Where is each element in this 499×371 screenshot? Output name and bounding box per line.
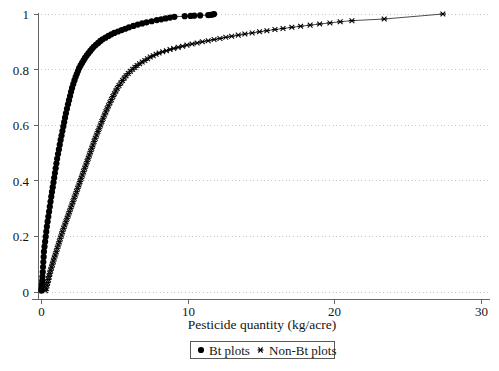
data-point <box>242 32 248 37</box>
y-tick-label-0.8: 0.8 <box>13 63 29 78</box>
y-tick-label-0.6: 0.6 <box>13 118 30 133</box>
data-point <box>41 254 47 260</box>
data-point <box>199 39 205 44</box>
data-point <box>191 13 197 19</box>
legend-label-bt-plots: Bt plots <box>209 343 250 358</box>
data-point <box>289 25 295 30</box>
data-point <box>171 14 177 20</box>
legend-label-non-bt-plots: Non-Bt plots <box>269 343 337 358</box>
data-point <box>317 22 323 27</box>
ecdf-chart: 1 0.8 0.6 0.4 0.2 0 0 10 20 30 Pesticide… <box>0 0 499 371</box>
data-point <box>194 41 200 46</box>
x-axis-title: Pesticide quantity (kg/acre) <box>188 317 336 332</box>
data-point <box>211 11 217 17</box>
y-tick-label-1: 1 <box>23 7 30 22</box>
series-line-1 <box>45 14 442 291</box>
series-line-0 <box>41 14 214 291</box>
y-tick-label-0.2: 0.2 <box>13 229 29 244</box>
data-point <box>205 38 211 43</box>
y-tick-label-0.4: 0.4 <box>13 174 30 189</box>
data-point <box>381 17 387 22</box>
y-tick-label-0: 0 <box>23 285 30 300</box>
data-point <box>179 44 185 49</box>
gridlines <box>41 14 490 292</box>
data-point <box>211 37 217 42</box>
data-point <box>297 24 303 29</box>
data-point <box>337 19 343 24</box>
x-tick-label-0: 0 <box>38 304 45 319</box>
data-point <box>256 29 262 34</box>
x-axis: 0 10 20 30 Pesticide quantity (kg/acre) <box>32 300 490 333</box>
data-point <box>235 33 241 38</box>
data-point <box>144 19 150 25</box>
data-point <box>264 28 270 33</box>
data-point <box>223 35 229 40</box>
data-point <box>440 12 446 17</box>
data-point <box>217 36 223 41</box>
data-point <box>307 23 313 28</box>
data-point <box>249 31 255 36</box>
x-tick-label-30: 30 <box>475 304 488 319</box>
data-point <box>272 27 278 32</box>
legend-marker-bt-plots <box>198 347 204 353</box>
y-axis: 1 0.8 0.6 0.4 0.2 0 <box>13 7 39 300</box>
figure-container: 1 0.8 0.6 0.4 0.2 0 0 10 20 30 Pesticide… <box>0 0 499 371</box>
data-point <box>197 12 203 18</box>
data-point <box>280 26 286 31</box>
data-point <box>184 43 190 48</box>
legend: Bt plots Non-Bt plots <box>191 342 337 359</box>
data-point <box>171 46 177 51</box>
data-point <box>189 42 195 47</box>
data-point <box>182 13 188 19</box>
data-point <box>175 45 181 50</box>
data-point <box>327 21 333 26</box>
data-point <box>349 18 355 23</box>
series-non-bt-plots <box>42 12 446 293</box>
series-bt-plots <box>38 11 217 294</box>
data-point <box>149 18 155 24</box>
data-series-layer <box>38 11 446 294</box>
data-point <box>229 34 235 39</box>
